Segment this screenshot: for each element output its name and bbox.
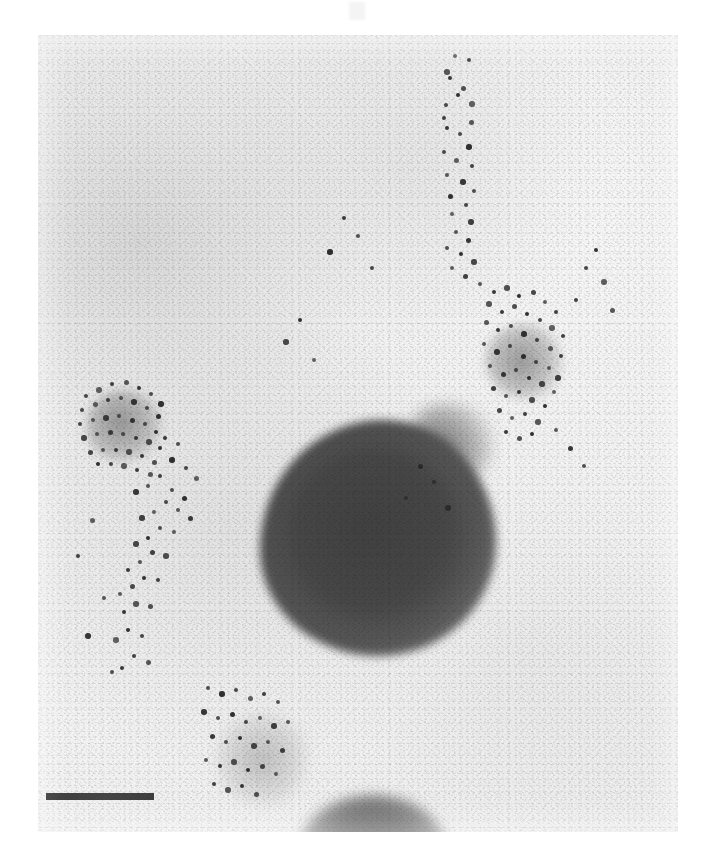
figure-page bbox=[0, 0, 712, 862]
top-registration-mark bbox=[349, 2, 365, 20]
electron-micrograph-plate bbox=[38, 35, 678, 832]
figure-caption bbox=[0, 0, 1, 1]
scale-bar bbox=[46, 793, 154, 800]
film-grain-streaks bbox=[38, 35, 678, 832]
